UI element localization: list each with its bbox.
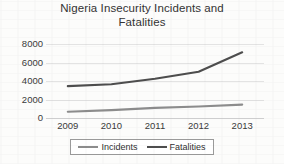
legend-swatch-fatalities [147,146,167,148]
y-tick-label-0: 0 [7,113,43,123]
series-line-fatalities [68,52,242,86]
y-tick-label-6000: 6000 [7,58,43,68]
chart-title-line-2: Fatalities [0,15,284,29]
chart-title-line-1: Nigeria Insecurity Incidents and [0,1,284,15]
x-axis-tick-labels: 20092010201120122013 [46,120,264,133]
plot-area [46,44,264,118]
x-tick-label-2010: 2010 [89,120,133,132]
line-chart: Nigeria Insecurity Incidents and Fatalit… [0,0,284,164]
x-tick-label-2011: 2011 [133,120,177,132]
y-tick-label-4000: 4000 [7,76,43,86]
x-tick-label-2013: 2013 [220,120,264,132]
legend-item-incidents: Incidents [78,142,137,152]
chart-legend: Incidents Fatalities [70,139,214,155]
chart-title: Nigeria Insecurity Incidents and Fatalit… [0,1,284,29]
series-line-incidents [68,105,242,112]
legend-label-incidents: Incidents [101,142,137,152]
legend-item-fatalities: Fatalities [147,142,206,152]
legend-swatch-incidents [78,146,98,148]
y-tick-label-8000: 8000 [7,39,43,49]
x-axis-line [46,118,264,119]
series-lines [46,44,264,118]
x-tick-label-2012: 2012 [177,120,221,132]
y-tick-label-2000: 2000 [7,95,43,105]
legend-label-fatalities: Fatalities [170,142,206,152]
x-tick-label-2009: 2009 [46,120,90,132]
